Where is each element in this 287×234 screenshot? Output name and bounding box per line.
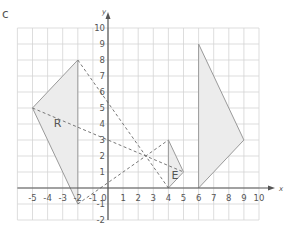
shape-image xyxy=(199,44,244,188)
y-tick-label: 3 xyxy=(100,135,105,145)
x-tick-label: 10 xyxy=(254,193,265,203)
x-tick-label: 8 xyxy=(226,193,231,203)
x-tick-label: 2 xyxy=(135,193,140,203)
y-tick-label: 6 xyxy=(100,87,105,97)
x-tick-label: 3 xyxy=(151,193,156,203)
shape-r xyxy=(33,60,78,204)
y-tick-label: -2 xyxy=(97,215,105,225)
shape-label-e: E xyxy=(171,169,178,182)
y-tick-label: -1 xyxy=(97,199,105,209)
y-tick-label: 8 xyxy=(100,55,105,65)
x-tick-label: -5 xyxy=(28,193,36,203)
y-tick-label: 5 xyxy=(100,103,105,113)
x-tick-label: 4 xyxy=(166,193,171,203)
y-tick-label: 10 xyxy=(94,23,105,33)
x-tick-label: -3 xyxy=(58,193,66,203)
y-axis-label: y xyxy=(101,8,107,16)
x-tick-label: 7 xyxy=(211,193,216,203)
x-tick-label: 1 xyxy=(120,193,125,203)
x-axis-label: x xyxy=(278,185,284,193)
x-tick-label: 9 xyxy=(241,193,246,203)
y-tick-label: 9 xyxy=(100,39,105,49)
y-tick-label: 1 xyxy=(100,167,105,177)
x-tick-label: -4 xyxy=(43,193,51,203)
shape-label-r: R xyxy=(54,117,62,130)
x-tick-label: 5 xyxy=(181,193,186,203)
y-tick-label: 7 xyxy=(100,71,105,81)
x-tick-label: -2 xyxy=(74,193,82,203)
y-tick-label: 2 xyxy=(100,151,105,161)
y-tick-label: 4 xyxy=(100,119,105,129)
coordinate-grid-diagram: RE -5-4-3-2-1012345678910-2-112345678910… xyxy=(0,0,287,234)
x-tick-label: 6 xyxy=(196,193,201,203)
y-axis-arrow-icon xyxy=(106,12,111,19)
x-axis-arrow-icon xyxy=(268,186,275,191)
